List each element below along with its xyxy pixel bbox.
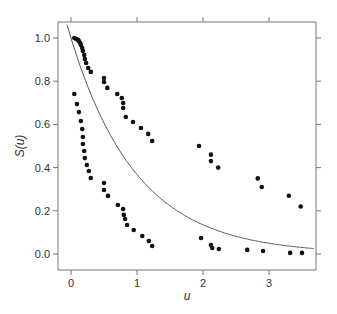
- data-point: [300, 251, 305, 256]
- y-tick-label: 0.2: [35, 205, 50, 217]
- data-point: [121, 101, 126, 106]
- data-point: [245, 248, 250, 253]
- x-tick-label: 2: [200, 277, 206, 289]
- x-tick-label: 3: [266, 277, 272, 289]
- data-point: [125, 223, 130, 228]
- data-point: [123, 217, 128, 222]
- data-point: [115, 92, 120, 97]
- data-point: [83, 57, 88, 62]
- y-axis-label: S(u): [13, 135, 27, 158]
- x-tick-label: 0: [68, 277, 74, 289]
- data-point: [106, 194, 111, 199]
- x-tick-label: 1: [134, 277, 140, 289]
- data-point: [139, 126, 144, 131]
- data-point: [210, 246, 215, 251]
- data-point: [146, 132, 151, 137]
- data-point: [197, 144, 202, 149]
- y-tick-label: 0.8: [35, 75, 50, 87]
- data-point: [116, 203, 121, 208]
- data-point: [121, 106, 126, 111]
- data-point: [86, 66, 91, 71]
- data-point: [75, 102, 80, 107]
- survival-curve: [67, 25, 314, 249]
- plot-frame: [58, 22, 316, 270]
- data-point: [102, 80, 107, 85]
- x-axis-label: u: [184, 289, 191, 303]
- data-point: [89, 176, 94, 181]
- data-point: [217, 247, 222, 252]
- data-point: [287, 193, 292, 198]
- data-point: [259, 185, 264, 190]
- data-point: [102, 188, 107, 193]
- data-point: [150, 139, 155, 144]
- data-point: [131, 120, 136, 125]
- y-tick-label: 0.4: [35, 162, 50, 174]
- data-point: [81, 49, 86, 54]
- data-point: [255, 176, 260, 181]
- data-point: [288, 251, 293, 256]
- data-point: [122, 213, 127, 218]
- y-tick-label: 0.6: [35, 118, 50, 130]
- y-tick-label: 0.0: [35, 248, 50, 260]
- data-point: [150, 244, 155, 249]
- data-point: [298, 204, 303, 209]
- data-points: [72, 36, 304, 256]
- data-point: [87, 169, 92, 174]
- data-point: [84, 61, 89, 66]
- data-point: [209, 152, 214, 157]
- data-point: [147, 239, 152, 244]
- scatter-plot: 01230.00.20.40.60.81.0 u S(u): [0, 0, 337, 314]
- data-point: [81, 142, 86, 147]
- data-point: [199, 236, 204, 241]
- data-point: [82, 53, 87, 58]
- data-point: [120, 96, 125, 101]
- data-point: [80, 127, 85, 132]
- y-tick-label: 1.0: [35, 32, 50, 44]
- data-point: [140, 234, 145, 239]
- data-point: [121, 207, 126, 212]
- data-point: [105, 86, 110, 91]
- data-point: [89, 70, 94, 75]
- data-point: [77, 110, 82, 115]
- data-point: [131, 228, 136, 233]
- data-point: [102, 76, 107, 81]
- data-point: [82, 149, 87, 154]
- data-point: [72, 92, 77, 97]
- data-point: [85, 163, 90, 168]
- data-point: [81, 135, 86, 140]
- data-point: [123, 115, 128, 120]
- data-point: [261, 249, 266, 254]
- data-point: [216, 165, 221, 170]
- data-point: [102, 181, 107, 186]
- data-point: [79, 119, 84, 124]
- data-point: [83, 156, 88, 161]
- data-point: [209, 159, 214, 164]
